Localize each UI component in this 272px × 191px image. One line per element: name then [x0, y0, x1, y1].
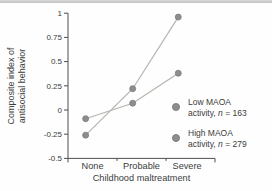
y-tick-label: 0.5: [51, 57, 63, 66]
legend-marker-icon: [172, 103, 180, 111]
data-point: [83, 116, 89, 122]
legend-item-low-maoa: Low MAOA activity, n = 163: [170, 97, 247, 119]
x-tick-label: Severe: [173, 161, 202, 171]
legend-label-high-maoa: High MAOA activity, n = 279: [188, 128, 247, 150]
data-point: [175, 70, 181, 76]
y-tick-label: 0.25: [46, 82, 62, 91]
data-point: [83, 132, 89, 138]
y-tick-label: -0.5: [48, 154, 62, 163]
data-point: [175, 14, 181, 20]
x-tick-label: Probable: [123, 161, 160, 171]
series-line-low-maoa: [86, 17, 179, 135]
data-point: [130, 100, 136, 106]
x-tick-label: None: [82, 161, 104, 171]
y-tick-label: 1: [58, 9, 63, 18]
y-tick-label: 0: [58, 106, 63, 115]
y-tick-label: -0.25: [44, 130, 63, 139]
legend-label-low-maoa: Low MAOA activity, n = 163: [188, 97, 247, 119]
x-axis-title: Childhood maltreatment: [68, 173, 215, 183]
legend-item-high-maoa: High MAOA activity, n = 279: [170, 128, 247, 150]
chart-canvas: 10.750.50.250-0.25-0.5NoneProbableSevere: [0, 0, 272, 191]
y-tick-label: 0.75: [46, 33, 62, 42]
legend-marker-icon: [172, 134, 180, 142]
legend: Low MAOA activity, n = 163 High MAOA act…: [170, 97, 247, 159]
data-point: [130, 86, 136, 92]
series-line-high-maoa: [86, 73, 179, 118]
maoa-maltreatment-chart: Composite index of antisocial behavior 1…: [0, 0, 272, 191]
